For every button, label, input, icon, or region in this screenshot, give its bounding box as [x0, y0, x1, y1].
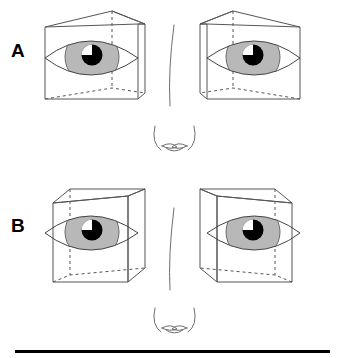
panel-a-left-eye [45, 30, 138, 84]
figure-illustration [0, 0, 345, 358]
nose-right-wing [188, 126, 195, 150]
nose-panel-b [154, 208, 195, 333]
nose-left-wing [154, 126, 161, 150]
panel-a-right-eye [207, 30, 300, 84]
bottom-rule [15, 350, 330, 353]
nose-right-wing [188, 308, 195, 332]
nose-bridge [170, 25, 175, 106]
figure-canvas: A B [0, 0, 345, 358]
panel-b-left-eye [45, 205, 138, 259]
panel-b-right-eye [207, 205, 300, 259]
nose-panel-a [154, 25, 195, 151]
nose-bridge [170, 208, 175, 290]
nose-left-wing [154, 308, 161, 332]
